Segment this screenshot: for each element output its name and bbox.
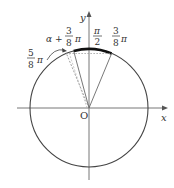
svg-text:π: π [93,26,101,36]
svg-text:8: 8 [66,38,72,48]
leader-arrow [47,50,64,60]
label-three-eighths-pi: 3 8 π [112,26,128,48]
radius-three-eighths [89,54,112,109]
origin-label: O [80,110,88,121]
unit-circle-diagram: y x O π 2 3 8 π α + 3 8 π 5 8 π [0,0,174,188]
highlighted-arc [74,49,112,54]
radius-five-eighths-dashed [66,54,89,109]
svg-text:π: π [74,34,82,44]
svg-text:π: π [120,34,128,44]
label-five-eighths-pi: 5 8 π [27,48,44,70]
x-axis-label: x [161,112,167,123]
label-pi-half: π 2 [93,26,102,47]
y-axis-arrow-icon [87,11,92,17]
x-axis-arrow-icon [162,106,168,111]
svg-text:α +: α + [46,34,62,44]
radius-alpha [74,51,89,108]
svg-text:3: 3 [113,26,119,36]
svg-text:π: π [36,55,44,65]
svg-text:3: 3 [66,26,72,36]
svg-text:5: 5 [28,48,34,58]
leader-arrow-head-icon [62,48,67,53]
radius-five-eighths-dashed-2 [69,53,87,109]
label-alpha-plus-three-eighths-pi: α + 3 8 π [46,26,82,48]
svg-text:8: 8 [28,60,34,70]
svg-text:2: 2 [95,37,101,47]
svg-text:8: 8 [113,38,119,48]
y-axis-label: y [79,12,86,23]
